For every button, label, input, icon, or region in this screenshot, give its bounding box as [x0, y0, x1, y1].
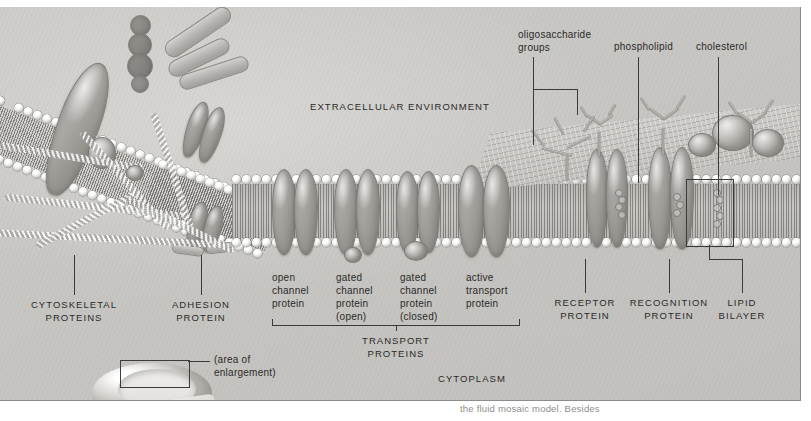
cholesterol-tree: [722, 103, 782, 157]
active-transport-protein: [458, 165, 508, 255]
recognition-protein-label-line1: RECOGNITION: [622, 297, 716, 309]
recognition-protein-label-line2: PROTEIN: [622, 310, 716, 322]
cytoplasm-label: CYTOPLASM: [438, 373, 506, 385]
glycoprotein-chain: [126, 15, 152, 99]
lipid-bilayer-callout-box: [686, 179, 734, 247]
cytoskeletal-proteins-label-line1: CYTOSKELETAL: [14, 299, 134, 311]
caption-text: the fluid mosaic model. Besides: [460, 404, 600, 414]
leader-oligosaccharide-crossbar: [533, 89, 577, 90]
transport-brace-center-tick: [396, 325, 397, 331]
gated-open-tail-blob: [344, 247, 362, 263]
page-caption-clipped: the fluid mosaic model. Besides: [0, 404, 811, 421]
leader-cholesterol: [718, 57, 719, 195]
adhesion-protein-label-line2: PROTEIN: [151, 312, 251, 324]
leader-recognition-protein: [669, 259, 670, 293]
leader-oligosaccharide-stem: [533, 57, 534, 89]
lipid-bilayer-label-line2: BILAYER: [706, 310, 778, 322]
cell-inset-illustration: [84, 359, 224, 401]
gated-channel-protein-closed: [396, 171, 438, 251]
oligosaccharide-tree-recognition: [632, 99, 696, 155]
area-of-enlargement-box: [120, 360, 190, 388]
leader-lipid-bilayer-join: [709, 259, 743, 260]
cholesterol-label: cholesterol: [696, 41, 747, 53]
extracellular-environment-label: EXTRACELLULAR ENVIRONMENT: [310, 101, 490, 113]
transport-proteins-group-label-line1: TRANSPORT: [320, 335, 472, 347]
cholesterol-molecule-1: [614, 189, 628, 237]
receptor-protein-label-line2: PROTEIN: [540, 310, 630, 322]
leader-phospholipid: [638, 57, 639, 183]
leader-adhesion-protein: [201, 255, 202, 295]
open-channel-protein: [272, 169, 316, 253]
leader-oligosaccharide-branch-right: [577, 89, 578, 115]
leader-lipid-bilayer: [742, 259, 743, 293]
leader-area-of-enlargement: [188, 361, 210, 362]
leader-cytoskeletal-proteins: [74, 255, 75, 295]
area-of-enlargement-label-line2: enlargement): [214, 367, 276, 379]
transport-brace-right-tick: [519, 319, 520, 326]
area-of-enlargement-label-line1: (area of: [214, 354, 250, 366]
leader-oligosaccharide-branch-left: [533, 89, 534, 145]
receptor-protein-label-line1: RECEPTOR: [540, 297, 630, 309]
cholesterol-molecule-3: [672, 193, 686, 237]
oligosaccharide-groups-label-line1: oligosaccharide: [518, 29, 591, 41]
cytoskeleton-junction: [126, 165, 144, 181]
adhesion-protein-upper: [178, 99, 228, 163]
figure-screenshot: EXTRACELLULAR ENVIRONMENT CYTOPLASM olig…: [0, 0, 811, 421]
gated-closed-gate-blob: [404, 241, 428, 261]
oligosaccharide-tree-large: [520, 111, 616, 181]
leader-lipid-bilayer-box: [709, 245, 710, 259]
lipid-bilayer-label-line1: LIPID: [706, 297, 778, 309]
oligosaccharide-groups-label-line2: groups: [518, 42, 550, 54]
adhesion-protein-label-line1: ADHESION: [151, 299, 251, 311]
gated-channel-protein-open: [334, 169, 378, 253]
transport-brace-left-tick: [272, 319, 273, 326]
cytoskeletal-proteins-label-line2: PROTEINS: [14, 312, 134, 324]
phospholipid-label: phospholipid: [614, 41, 673, 53]
membrane-diagram-plate: EXTRACELLULAR ENVIRONMENT CYTOPLASM olig…: [0, 7, 801, 401]
transport-proteins-group-label-line2: PROTEINS: [320, 348, 472, 360]
leader-receptor-protein: [585, 259, 586, 293]
